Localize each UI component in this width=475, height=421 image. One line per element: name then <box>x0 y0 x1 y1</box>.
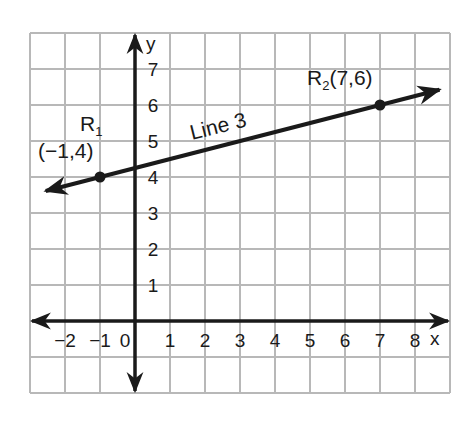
x-tick-label: 4 <box>270 330 281 351</box>
x-tick-label: 3 <box>235 330 246 351</box>
x-tick-label: 2 <box>200 330 211 351</box>
x-tick-label: 0 <box>120 330 131 351</box>
x-axis-label: x <box>430 328 440 349</box>
tick-labels: −2−10123456781234567 <box>54 59 420 351</box>
r1-coords: (−1,4) <box>38 139 93 162</box>
y-tick-label: 3 <box>148 203 159 224</box>
y-tick-label: 1 <box>148 275 159 296</box>
x-tick-label: −2 <box>54 330 76 351</box>
point-r2 <box>375 100 386 111</box>
y-tick-label: 5 <box>148 131 159 152</box>
y-tick-label: 7 <box>148 59 159 80</box>
point-r2-label: R2(7,6) <box>307 66 373 93</box>
r1-name: R <box>80 112 95 135</box>
x-tick-label: 8 <box>410 330 421 351</box>
y-tick-label: 2 <box>148 239 159 260</box>
y-tick-label: 6 <box>148 95 159 116</box>
x-tick-label: −1 <box>89 330 111 351</box>
r2-subscript: 2 <box>322 78 329 93</box>
y-tick-label: 4 <box>148 167 159 188</box>
r1-subscript: 1 <box>95 124 102 139</box>
y-axis-label: y <box>146 33 156 54</box>
x-tick-label: 6 <box>340 330 351 351</box>
r2-coords: (7,6) <box>329 66 372 89</box>
x-tick-label: 5 <box>305 330 316 351</box>
point-r1 <box>95 172 106 183</box>
coordinate-plane: −2−10123456781234567 y x Line 3 R1 (−1,4… <box>0 0 475 421</box>
svg-text:R2(7,6): R2(7,6) <box>307 66 373 93</box>
x-tick-label: 1 <box>165 330 176 351</box>
x-tick-label: 7 <box>375 330 386 351</box>
point-r1-label: R1 (−1,4) <box>38 112 102 162</box>
r2-name: R <box>307 66 322 89</box>
